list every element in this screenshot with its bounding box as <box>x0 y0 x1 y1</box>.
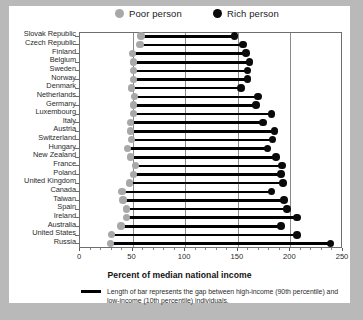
x-axis-tick-mark <box>111 248 112 250</box>
x-axis-tick-mark <box>321 248 322 250</box>
poor-person-marker <box>137 32 144 39</box>
gray-filled-circle-icon <box>115 9 124 18</box>
y-axis-tick <box>75 148 79 149</box>
x-axis-tick-mark <box>163 248 164 250</box>
poor-person-marker <box>129 50 136 57</box>
y-axis-tick <box>75 114 79 115</box>
poor-person-marker <box>107 240 114 247</box>
range-bar <box>141 35 235 38</box>
row-label-united-kingdom: United Kingdom <box>24 176 76 185</box>
range-bar <box>134 78 248 81</box>
rich-person-marker <box>279 179 287 187</box>
x-axis-tick-mark <box>79 248 80 251</box>
range-bar <box>126 216 296 219</box>
range-bar <box>133 52 247 55</box>
y-axis-tick <box>75 243 79 244</box>
rich-person-marker <box>246 58 254 66</box>
rich-person-marker <box>293 231 301 239</box>
range-bar <box>134 173 281 176</box>
range-bar <box>131 130 275 133</box>
x-axis-tick-label-50: 50 <box>127 252 135 261</box>
poor-person-marker <box>131 93 138 100</box>
row-label-czech-republic: Czech Republic <box>25 38 76 47</box>
x-axis-tick-mark <box>121 248 122 250</box>
legend-label-rich-person: Rich person <box>227 8 279 19</box>
y-axis-tick <box>75 217 79 218</box>
poor-person-marker <box>130 110 137 117</box>
range-bar <box>126 208 287 211</box>
range-bar <box>122 191 271 194</box>
x-axis-tick-mark <box>331 248 332 250</box>
rich-person-marker <box>268 188 276 196</box>
range-bar <box>112 234 297 237</box>
poor-person-marker <box>127 127 134 134</box>
range-bar <box>111 242 331 245</box>
poor-person-marker <box>130 76 137 83</box>
x-axis-tick-mark <box>153 248 154 250</box>
poor-person-marker <box>127 153 134 160</box>
row-label-denmark: Denmark <box>46 81 76 90</box>
y-axis-tick <box>75 131 79 132</box>
y-axis-tick <box>75 139 79 140</box>
row-label-australia: Australia <box>48 220 76 229</box>
x-axis-tick-mark <box>216 248 217 250</box>
rich-person-marker <box>277 170 285 178</box>
range-bar <box>132 139 273 142</box>
legend-label-poor-person: Poor person <box>129 8 182 19</box>
y-axis-tick <box>75 191 79 192</box>
x-axis-tick-label-150: 150 <box>230 252 243 261</box>
row-label-slovak-republic: Slovak Republic <box>24 29 76 38</box>
x-axis-tick-mark <box>184 248 185 251</box>
row-label-austria: Austria <box>53 124 76 133</box>
poor-person-marker <box>108 231 115 238</box>
rich-person-marker <box>237 84 245 92</box>
x-axis-tick-mark <box>195 248 196 250</box>
rich-person-marker <box>269 136 277 144</box>
range-bar <box>135 96 258 99</box>
row-label-ireland: Ireland <box>54 211 76 220</box>
row-label-belgium: Belgium <box>50 55 76 64</box>
row-label-germany: Germany <box>46 99 76 108</box>
range-bar <box>127 147 267 150</box>
y-axis-tick <box>75 200 79 201</box>
poor-person-marker <box>118 188 125 195</box>
row-label-italy: Italy <box>63 116 76 125</box>
x-axis-tick-mark <box>300 248 301 250</box>
y-axis-tick <box>75 79 79 80</box>
x-axis-tick-mark <box>132 248 133 251</box>
legend-item-poor-person: Poor person <box>115 8 182 19</box>
range-bar <box>134 104 256 107</box>
chart-row: Luxembourg <box>9 110 350 119</box>
x-axis-tick-mark <box>310 248 311 250</box>
row-label-canada: Canada <box>50 185 76 194</box>
range-bar <box>121 225 281 228</box>
y-axis-tick <box>75 157 79 158</box>
y-axis-tick <box>75 96 79 97</box>
rich-person-marker <box>244 67 252 75</box>
poor-person-marker <box>128 84 135 91</box>
row-label-france: France <box>53 159 76 168</box>
rich-person-marker <box>280 196 288 204</box>
y-axis-tick <box>75 70 79 71</box>
chart-legend: Poor person Rich person <box>9 8 350 26</box>
x-axis-tick-mark <box>205 248 206 250</box>
rich-person-marker <box>278 162 286 170</box>
rich-person-marker <box>264 145 272 153</box>
x-axis-tick-mark <box>258 248 259 250</box>
poor-person-marker <box>130 67 137 74</box>
y-axis-tick <box>75 226 79 227</box>
rich-person-marker <box>268 110 276 118</box>
rich-person-marker <box>242 49 250 57</box>
row-label-taiwan: Taiwan <box>53 194 76 203</box>
y-axis-tick <box>75 165 79 166</box>
figure-card: Poor person Rich person Slovak RepublicC… <box>9 6 350 303</box>
x-axis-tick-label-200: 200 <box>283 252 296 261</box>
rich-person-marker <box>244 75 252 83</box>
range-bar <box>129 182 283 185</box>
row-label-new-zealand: New Zealand <box>33 150 76 159</box>
chart-row: Russia <box>9 239 350 248</box>
bar-swatch-icon <box>81 290 101 293</box>
y-axis-tick <box>75 62 79 63</box>
row-label-norway: Norway <box>51 73 76 82</box>
row-label-hungary: Hungary <box>48 142 76 151</box>
